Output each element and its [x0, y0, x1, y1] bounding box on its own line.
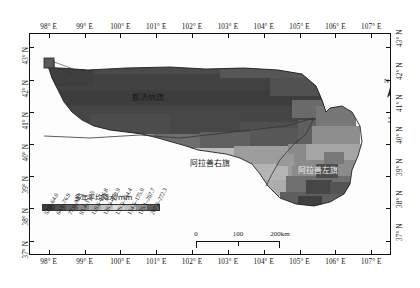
tick-mark	[386, 176, 390, 177]
tick-mark	[386, 112, 390, 113]
lat-label-right-37: 37° N	[396, 223, 404, 241]
tick-mark	[228, 34, 229, 38]
lon-label-bottom-101: 101° E	[146, 258, 166, 266]
tick-mark	[386, 80, 390, 81]
lon-label-top-106: 106° E	[325, 23, 345, 31]
tick-mark	[264, 250, 265, 254]
lat-label-left-37: 37° N	[22, 241, 30, 259]
tick-mark	[30, 208, 34, 209]
region-label-ejina: 额济纳旗	[132, 91, 164, 102]
region-label-alxa-right: 阿拉善右旗	[190, 157, 230, 168]
scale-bar-graphic	[196, 241, 288, 249]
tick-mark	[386, 47, 390, 48]
lon-label-bottom-98: 98° E	[40, 258, 57, 266]
tick-mark	[85, 250, 86, 254]
lon-label-top-100: 100° E	[110, 23, 130, 31]
lat-label-left-40: 40° N	[22, 144, 30, 162]
tick-mark	[120, 34, 121, 38]
lon-label-top-104: 104° E	[254, 23, 274, 31]
lon-label-bottom-103: 103° E	[218, 258, 238, 266]
tick-mark	[156, 34, 157, 38]
legend: 多年平均降水/mm 52.8–64.0 64.1–76.9 77.	[42, 191, 164, 254]
lon-label-top-101: 101° E	[146, 23, 166, 31]
tick-mark	[335, 34, 336, 38]
tick-mark	[120, 250, 121, 254]
tick-mark	[30, 176, 34, 177]
legend-class-labels: 52.8–64.0 64.1–76.9 77.0–93.3 93.4–110.5…	[42, 211, 164, 254]
tick-mark	[228, 250, 229, 254]
tick-mark	[386, 208, 390, 209]
north-arrow-head	[387, 84, 390, 98]
tick-mark	[30, 241, 34, 242]
scale-label-200: 200km	[270, 230, 289, 238]
map-figure: 额济纳旗 阿拉善右旗 阿拉善左旗 N 多年平均降水/mm	[0, 0, 420, 288]
lat-label-right-42: 42° N	[396, 62, 404, 80]
region-label-alxa-left: 阿拉善左旗	[298, 164, 338, 175]
lon-label-bottom-102: 102° E	[182, 258, 202, 266]
lon-label-bottom-99: 99° E	[76, 258, 93, 266]
lat-label-left-41: 41° N	[22, 112, 30, 130]
tick-mark	[386, 241, 390, 242]
lat-label-right-41: 41° N	[396, 94, 404, 112]
tick-mark	[386, 144, 390, 145]
north-arrow: N	[382, 78, 390, 122]
lon-label-top-98: 98° E	[40, 23, 57, 31]
tick-mark	[264, 34, 265, 38]
lon-label-bottom-104: 104° E	[254, 258, 274, 266]
tick-mark	[30, 80, 34, 81]
lat-label-left-43: 43° N	[22, 47, 30, 65]
lat-label-left-39: 39° N	[22, 176, 30, 194]
scale-label-100: 100	[233, 230, 244, 238]
scale-bar: 0 100 200km	[196, 230, 288, 249]
map-neatline: 额济纳旗 阿拉善右旗 阿拉善左旗 N 多年平均降水/mm	[29, 33, 391, 255]
tick-mark	[156, 250, 157, 254]
tick-mark	[49, 34, 50, 38]
tick-mark	[85, 34, 86, 38]
tick-mark	[30, 47, 34, 48]
lon-label-top-105: 105° E	[289, 23, 309, 31]
lon-label-top-102: 102° E	[182, 23, 202, 31]
lon-label-bottom-100: 100° E	[110, 258, 130, 266]
tick-mark	[30, 144, 34, 145]
tick-mark	[335, 250, 336, 254]
tick-mark	[30, 112, 34, 113]
lon-label-top-103: 103° E	[218, 23, 238, 31]
lat-label-right-43: 43° N	[396, 30, 404, 48]
exclave-polygon	[44, 58, 54, 68]
lon-label-top-99: 99° E	[76, 23, 93, 31]
tick-mark	[300, 250, 301, 254]
tick-mark	[192, 34, 193, 38]
lon-label-bottom-105: 105° E	[289, 258, 309, 266]
lat-label-left-42: 42° N	[22, 80, 30, 98]
lon-label-top-107: 107° E	[361, 23, 381, 31]
lon-label-bottom-106: 106° E	[325, 258, 345, 266]
lat-label-right-40: 40° N	[396, 126, 404, 144]
scale-bar-labels: 0 100 200km	[196, 230, 288, 240]
lat-label-right-38: 38° N	[396, 191, 404, 209]
scale-label-0: 0	[194, 230, 198, 238]
tick-mark	[371, 34, 372, 38]
tick-mark	[300, 34, 301, 38]
tick-mark	[49, 250, 50, 254]
lon-label-bottom-107: 107° E	[361, 258, 381, 266]
tick-mark	[192, 250, 193, 254]
map-canvas[interactable]: 额济纳旗 阿拉善右旗 阿拉善左旗 N 多年平均降水/mm	[30, 34, 390, 254]
lat-label-left-38: 38° N	[22, 208, 30, 226]
tick-mark	[371, 250, 372, 254]
lat-label-right-39: 39° N	[396, 159, 404, 177]
